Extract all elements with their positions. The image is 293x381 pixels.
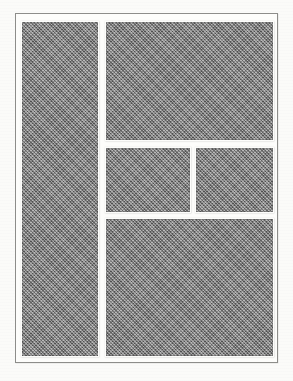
layout-block-left-column-label: Left Column (22, 22, 23, 23)
layout-block-top-right-label: Top Right Block (106, 22, 107, 23)
page-frame: Left Column Top Right Block Middle Left … (15, 13, 278, 363)
layout-block-bottom-right-label: Bottom Right Block (106, 219, 107, 220)
layout-block-top-right[interactable]: Top Right Block (106, 22, 273, 140)
layout-block-mid-left[interactable]: Middle Left Block (106, 148, 190, 212)
layout-block-left-column[interactable]: Left Column (22, 22, 98, 356)
layout-block-mid-right-label: Middle Right Block (196, 148, 197, 149)
layout-block-mid-left-label: Middle Left Block (106, 148, 107, 149)
layout-block-bottom-right[interactable]: Bottom Right Block (106, 219, 273, 356)
diagram-title: Page Layout Grid Diagram (0, 0, 1, 1)
layout-block-mid-right[interactable]: Middle Right Block (196, 148, 273, 212)
page-root: Left Column Top Right Block Middle Left … (0, 0, 293, 381)
